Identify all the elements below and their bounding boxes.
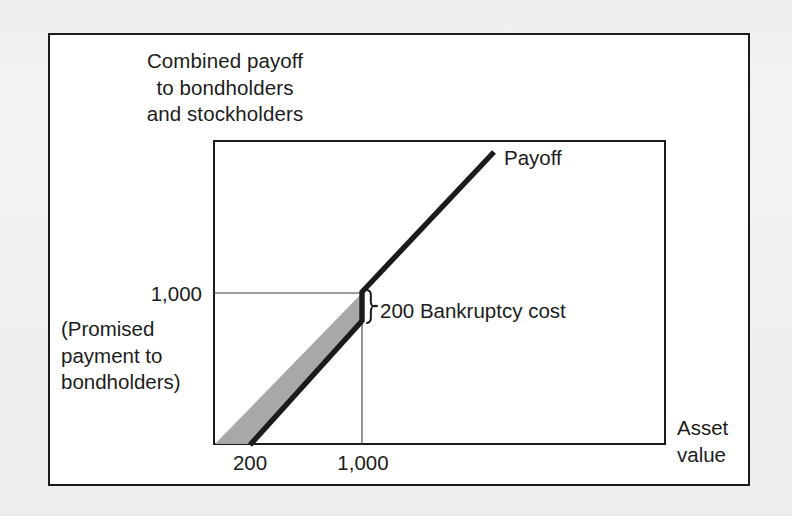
- bankruptcy-cost-brace: [367, 290, 377, 323]
- y-axis-tick-label-1000: 1,000: [80, 281, 202, 308]
- x-axis-tick-label-1000: 1,000: [320, 450, 406, 477]
- bankruptcy-cost-annotation-label: 200 Bankruptcy cost: [380, 298, 566, 325]
- payoff-line-upper-segment: [361, 152, 494, 293]
- x-axis-label-asset-value: Asset value: [677, 415, 753, 468]
- payoff-line-lower-segment: [250, 321, 362, 445]
- y-axis-note-promised-payment: (Promised payment to bondholders): [61, 316, 221, 396]
- x-axis-tick-label-200: 200: [213, 450, 287, 477]
- bankruptcy-cost-shaded-region: [215, 293, 362, 444]
- payoff-series-label: Payoff: [504, 145, 562, 172]
- chart-title: Combined payoff to bondholders and stock…: [104, 48, 346, 128]
- figure-root: Combined payoff to bondholders and stock…: [0, 0, 792, 516]
